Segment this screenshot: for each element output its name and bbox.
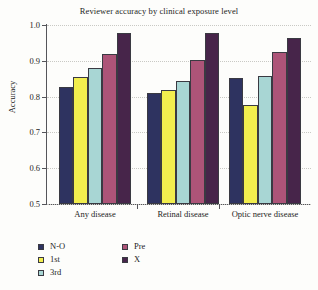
legend-item[interactable]: 1st [38,253,65,266]
legend-swatch-icon [38,270,44,276]
legend-column-left: N-O1st3rd [38,240,65,279]
bar [205,33,219,204]
bar [102,54,116,204]
y-tick-label: 0.7 [8,127,40,137]
legend-item[interactable]: Pre [122,240,145,253]
bar [229,78,243,204]
legend-swatch-icon [122,244,128,250]
chart-title: Reviewer accuracy by clinical exposure l… [0,6,318,16]
bar [161,90,175,204]
y-tick-label: 0.6 [8,163,40,173]
legend-item[interactable]: N-O [38,240,65,253]
bar [287,38,301,204]
bar [117,33,131,204]
legend-label: X [134,255,140,264]
bar [88,68,102,204]
bar [147,93,161,204]
bar [176,81,190,204]
legend-label: 1st [50,255,60,264]
y-tick-label: 0.5 [8,199,40,209]
bar [59,87,73,204]
bar [73,77,87,204]
gridline [47,204,311,205]
y-tick-label: 0.8 [8,92,40,102]
x-category-label: Optic nerve disease [205,209,318,219]
y-tick-label: 0.9 [8,56,40,66]
legend-swatch-icon [38,257,44,263]
legend-label: Pre [134,242,145,251]
bar [190,60,204,204]
gridline [47,25,311,26]
legend-item[interactable]: 3rd [38,266,65,279]
legend-swatch-icon [38,244,44,250]
legend-item[interactable]: X [122,253,145,266]
legend-swatch-icon [122,257,128,263]
bar [272,52,286,204]
plot-area [47,25,311,204]
bar [243,105,257,204]
y-tick-label: 1.0 [8,20,40,30]
legend-label: 3rd [50,268,61,277]
chart-figure: Reviewer accuracy by clinical exposure l… [0,0,318,290]
legend-label: N-O [50,242,65,251]
bar [258,76,272,204]
legend-column-right: PreX [122,240,145,266]
